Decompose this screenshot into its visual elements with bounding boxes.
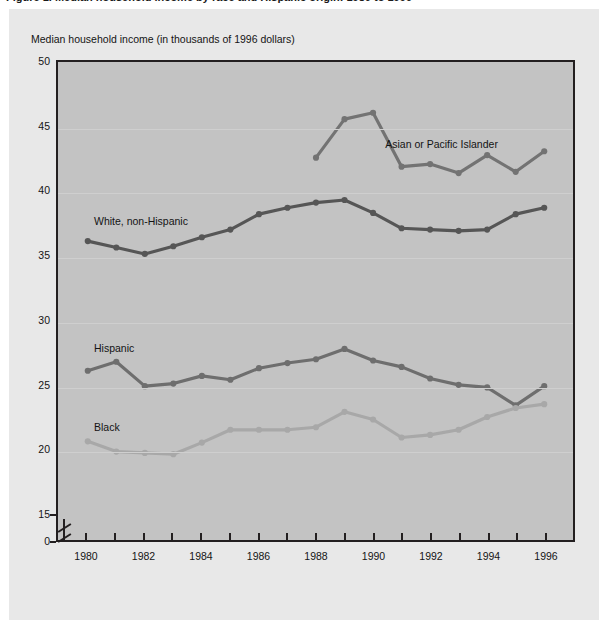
data-point xyxy=(513,169,519,175)
data-point xyxy=(370,110,376,116)
data-point xyxy=(142,251,148,257)
data-point xyxy=(513,405,519,411)
data-point xyxy=(427,432,433,438)
gridline xyxy=(58,323,573,324)
y-tick-label: 40 xyxy=(16,184,50,196)
y-tick-label: 25 xyxy=(16,379,50,391)
data-point xyxy=(427,161,433,167)
y-tick-label: 35 xyxy=(16,249,50,261)
data-point xyxy=(227,377,233,383)
x-tick-label: 1996 xyxy=(524,550,568,562)
series-label-asian: Asian or Pacific Islander xyxy=(385,138,498,150)
x-tick-mark xyxy=(430,533,432,540)
x-tick-label: 1982 xyxy=(122,550,166,562)
y-tick-label: 50 xyxy=(16,55,50,67)
data-point xyxy=(341,409,347,415)
x-tick-label: 1980 xyxy=(64,550,108,562)
data-point xyxy=(456,427,462,433)
plot-area xyxy=(56,60,575,542)
gridline xyxy=(58,258,573,259)
x-tick-mark xyxy=(286,533,288,540)
data-point xyxy=(484,226,490,232)
data-point xyxy=(541,148,547,154)
data-point xyxy=(456,170,462,176)
data-point xyxy=(256,211,262,217)
data-point xyxy=(370,357,376,363)
figure-median-household-income: Figure 1. Median household income by rac… xyxy=(0,0,608,629)
series-label-white: White, non-Hispanic xyxy=(94,215,188,227)
series-line-white-non-hispanic xyxy=(88,200,544,254)
data-point xyxy=(313,356,319,362)
y-tick-label: 30 xyxy=(16,314,50,326)
data-point xyxy=(313,200,319,206)
data-point xyxy=(313,155,319,161)
data-point xyxy=(284,360,290,366)
gridline xyxy=(58,388,573,389)
figure-caption-cutoff: Figure 1. Median household income by rac… xyxy=(0,0,608,5)
data-point xyxy=(513,211,519,217)
x-tick-mark xyxy=(143,533,145,540)
data-point xyxy=(399,164,405,170)
data-point xyxy=(227,226,233,232)
x-tick-mark xyxy=(229,533,231,540)
data-point xyxy=(170,381,176,387)
data-point xyxy=(85,238,91,244)
data-point xyxy=(541,401,547,407)
data-point xyxy=(199,440,205,446)
data-point xyxy=(370,210,376,216)
data-point xyxy=(427,375,433,381)
data-point xyxy=(85,368,91,374)
data-point xyxy=(199,234,205,240)
data-point xyxy=(484,414,490,420)
x-tick-mark xyxy=(258,533,260,540)
series-layer xyxy=(58,62,573,540)
x-tick-label: 1992 xyxy=(409,550,453,562)
y-tick-label: 45 xyxy=(16,120,50,132)
series-label-black: Black xyxy=(94,421,120,433)
x-tick-mark xyxy=(459,533,461,540)
data-point xyxy=(399,225,405,231)
data-point xyxy=(85,438,91,444)
data-point xyxy=(113,359,119,365)
x-tick-mark xyxy=(344,533,346,540)
data-point xyxy=(399,364,405,370)
data-point xyxy=(199,373,205,379)
y-tick-label: 0 xyxy=(16,535,50,547)
x-tick-label: 1988 xyxy=(294,550,338,562)
data-point xyxy=(427,226,433,232)
data-point xyxy=(456,228,462,234)
x-tick-mark xyxy=(373,533,375,540)
data-point xyxy=(541,205,547,211)
chart-panel: Median household income (in thousands of… xyxy=(9,9,599,620)
data-point xyxy=(284,427,290,433)
data-point xyxy=(256,427,262,433)
data-point xyxy=(170,243,176,249)
data-point xyxy=(256,365,262,371)
x-tick-mark xyxy=(401,533,403,540)
y-tick-label: 20 xyxy=(16,443,50,455)
y-tick-label: 15 xyxy=(16,508,50,520)
x-tick-mark xyxy=(85,533,87,540)
x-tick-mark xyxy=(488,533,490,540)
data-point xyxy=(113,244,119,250)
data-point xyxy=(341,197,347,203)
y-tick-mark xyxy=(50,541,56,543)
data-point xyxy=(370,416,376,422)
x-tick-mark xyxy=(315,533,317,540)
y-tick-mark xyxy=(50,514,56,516)
x-tick-label: 1984 xyxy=(179,550,223,562)
x-tick-mark xyxy=(516,533,518,540)
x-tick-label: 1986 xyxy=(237,550,281,562)
data-point xyxy=(284,205,290,211)
x-tick-label: 1994 xyxy=(467,550,511,562)
series-label-hispanic: Hispanic xyxy=(94,342,134,354)
gridline xyxy=(58,129,573,130)
x-tick-mark xyxy=(171,533,173,540)
x-tick-mark xyxy=(545,533,547,540)
data-point xyxy=(341,116,347,122)
x-tick-label: 1990 xyxy=(352,550,396,562)
data-point xyxy=(341,346,347,352)
data-point xyxy=(227,427,233,433)
data-point xyxy=(313,424,319,430)
gridline xyxy=(58,193,573,194)
